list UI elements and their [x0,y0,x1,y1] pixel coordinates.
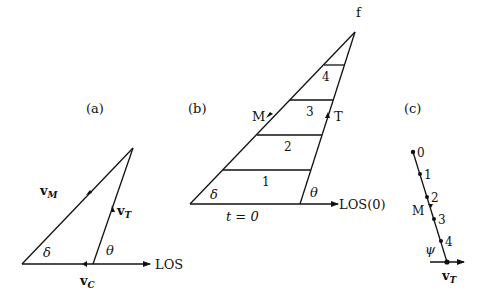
point-0-label: 0 [417,146,425,160]
segment-4-label: 4 [322,70,330,84]
theta-label-b: θ [310,185,318,200]
apex-f-label: f [356,5,362,20]
track-point-0 [411,150,415,154]
panel-a-label: (a) [86,101,104,116]
panel-c-label: (c) [404,101,421,116]
point-4-label: 4 [445,235,453,249]
track-point-4 [439,239,443,243]
missile-label: M [252,109,265,124]
panel-a: (a) vM vT vC δ θ LOS [22,101,183,290]
missile-label-c: M [412,204,424,218]
segment-2-label: 2 [284,140,292,154]
vt-label: vT [116,203,133,220]
theta-label: θ [106,243,114,258]
point-1-label: 1 [424,168,432,182]
vc-label: vC [79,273,96,290]
vm-label: vM [39,183,59,200]
track-point-1 [418,172,422,176]
missile-path [190,32,355,204]
target-point [444,259,449,264]
panel-b: (b) f M T 1 2 3 4 δ θ LOS(0) t = 0 [188,5,386,224]
segment-3-label: 3 [306,105,314,119]
missile-arrow-icon [266,112,273,118]
psi-label: ψ [425,242,436,257]
panel-c: (c) 0 1 2 3 4 M ψ vT [404,101,464,285]
track-point-3 [432,217,436,221]
target-label: T [334,109,343,124]
vc-arrow-icon [82,261,87,267]
diagram-canvas: (a) vM vT vC δ θ LOS (b) f M T 1 2 3 4 [0,0,489,292]
panel-b-label: (b) [188,101,206,116]
los-label: LOS [155,257,183,272]
delta-label-b: δ [210,187,218,202]
vt-label-c: vT [441,268,458,285]
time-zero-label: t = 0 [226,209,259,224]
delta-label: δ [43,245,51,260]
point-2-label: 2 [431,191,439,205]
track-point-2 [425,195,429,199]
point-3-label: 3 [438,213,446,227]
segment-1-label: 1 [262,175,270,189]
los0-label: LOS(0) [339,197,386,212]
